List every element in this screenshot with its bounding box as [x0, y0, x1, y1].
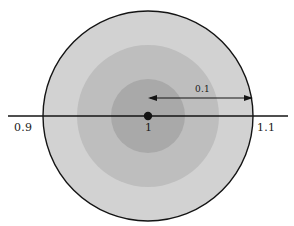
tick-label-right: 1.1 [257, 121, 275, 134]
radius-annotation-label: 0.1 [195, 84, 210, 94]
diagram-canvas [0, 0, 294, 226]
neighbourhood-diagram: 0.9 1 1.1 0.1 [0, 0, 294, 226]
tick-label-left: 0.9 [14, 121, 32, 134]
tick-label-center: 1 [145, 121, 152, 134]
center-point-marker [144, 112, 152, 120]
